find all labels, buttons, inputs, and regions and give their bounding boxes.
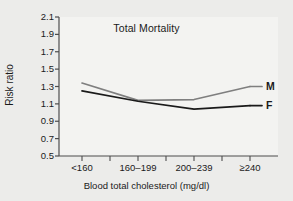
y-tick-label-text: 0.9 bbox=[28, 116, 54, 126]
y-tick-label: 0.5 bbox=[26, 151, 54, 161]
y-tick-label-text: 1.1 bbox=[28, 99, 54, 109]
y-tick-label: 0.9 bbox=[26, 116, 54, 126]
y-tick-label: 1.1 bbox=[26, 99, 54, 109]
y-tick-label: 1.9 bbox=[26, 29, 54, 39]
y-tick-label-text: 2.1 bbox=[28, 12, 54, 22]
x-tick-label: ≥240 bbox=[215, 163, 285, 173]
y-tick-label-text: 1.9 bbox=[28, 29, 54, 39]
series-label-m: M bbox=[266, 81, 275, 92]
series-label-f: F bbox=[266, 100, 272, 111]
y-axis-label: Risk ratio bbox=[5, 55, 15, 115]
x-axis-label: Blood total cholesterol (mg/dl) bbox=[0, 181, 293, 191]
y-tick-label-text: 0.5 bbox=[28, 151, 54, 161]
y-tick-label-text: 1.3 bbox=[28, 82, 54, 92]
y-tick-label: 0.7 bbox=[26, 134, 54, 144]
y-tick-label-text: 1.5 bbox=[28, 64, 54, 74]
y-tick-label: 1.5 bbox=[26, 64, 54, 74]
chart-screenshot: Total Mortality Risk ratio Blood total c… bbox=[0, 0, 293, 201]
y-tick-label: 2.1 bbox=[26, 12, 54, 22]
y-tick-label-text: 1.7 bbox=[28, 47, 54, 57]
y-tick-label: 1.7 bbox=[26, 47, 54, 57]
y-tick-label-text: 0.7 bbox=[28, 134, 54, 144]
x-tick-marks bbox=[82, 156, 250, 161]
y-tick-label: 1.3 bbox=[26, 82, 54, 92]
